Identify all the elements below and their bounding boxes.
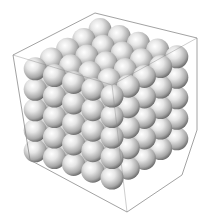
sphere xyxy=(101,126,124,149)
sphere xyxy=(101,105,124,128)
sphere xyxy=(101,167,124,190)
sphere xyxy=(101,85,124,108)
lattice-scene xyxy=(0,0,209,224)
sphere xyxy=(101,146,124,169)
sphere-lattice xyxy=(24,18,189,189)
